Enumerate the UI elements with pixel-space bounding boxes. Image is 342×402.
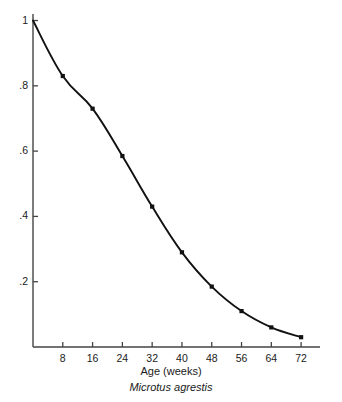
x-axis-tick-label: 72 xyxy=(286,353,316,364)
data-point-marker xyxy=(180,250,184,254)
x-axis-tick-label: 32 xyxy=(137,353,167,364)
x-axis-tick-label: 48 xyxy=(197,353,227,364)
x-axis-tick-label: 56 xyxy=(227,353,257,364)
survivorship-line xyxy=(33,21,301,338)
x-axis-tick-label: 40 xyxy=(167,353,197,364)
y-axis-tick-label: .2 xyxy=(4,276,28,287)
y-axis-tick-label: .6 xyxy=(4,145,28,156)
species-caption: Microtus agrestis xyxy=(0,381,342,393)
data-point-marker xyxy=(61,74,65,78)
x-axis-tick-label: 64 xyxy=(256,353,286,364)
y-axis-tick-label: 1 xyxy=(4,15,28,26)
data-point-marker xyxy=(269,325,273,329)
survivorship-chart-figure: .2.4.6.81 81624324048566472 Age (weeks) … xyxy=(0,0,342,402)
x-axis-tick-label: 8 xyxy=(48,353,78,364)
data-point-marker xyxy=(120,154,124,158)
chart-plot-area xyxy=(0,0,342,402)
y-axis-tick-label: .8 xyxy=(4,80,28,91)
data-point-marker xyxy=(299,335,303,339)
data-point-marker xyxy=(239,309,243,313)
data-point-marker xyxy=(150,205,154,209)
x-axis-tick-label: 24 xyxy=(107,353,137,364)
y-axis-tick-label: .4 xyxy=(4,210,28,221)
x-axis-tick-label: 16 xyxy=(78,353,108,364)
data-point-marker xyxy=(90,107,94,111)
data-point-marker xyxy=(210,285,214,289)
x-axis-title: Age (weeks) xyxy=(0,365,342,377)
